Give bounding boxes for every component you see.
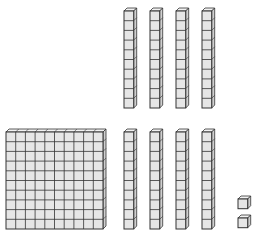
ten-rod <box>123 7 138 109</box>
ten-rod <box>201 7 216 109</box>
hundred-flat <box>5 128 107 230</box>
unit-cube <box>237 195 252 210</box>
ten-rod <box>123 128 138 230</box>
ten-rod <box>175 7 190 109</box>
ten-rod <box>149 128 164 230</box>
ten-rod <box>175 128 190 230</box>
unit-cube <box>237 214 252 229</box>
ten-rod <box>201 128 216 230</box>
ten-rod <box>149 7 164 109</box>
